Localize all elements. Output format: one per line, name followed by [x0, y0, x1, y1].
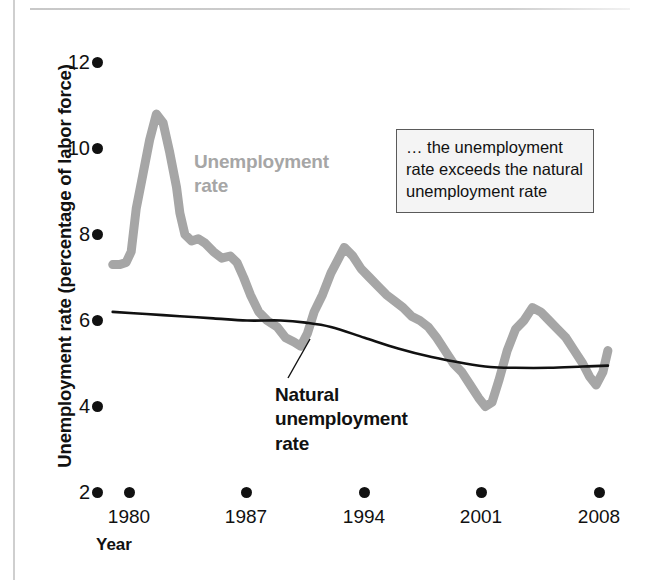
- x-tick-label-1980: 1980: [89, 506, 169, 528]
- x-tick-dot-1994: [359, 487, 370, 498]
- annotation-line3: unemployment rate: [406, 181, 584, 203]
- x-tick-label-1987: 1987: [206, 506, 286, 528]
- series-label-natural-rate: Natural unemployment rate: [275, 383, 408, 456]
- series-label-unemployment-line1: Unemployment: [194, 150, 329, 174]
- x-axis-title: Year: [96, 535, 132, 555]
- annotation-line1: … the unemployment: [406, 137, 584, 159]
- x-tick-label-2001: 2001: [441, 506, 521, 528]
- x-tick-dot-2008: [594, 487, 605, 498]
- chart-page: Unemployment rate (percentage of labor f…: [0, 0, 651, 580]
- x-tick-dot-1987: [241, 487, 252, 498]
- x-tick-label-2008: 2008: [559, 506, 639, 528]
- series-label-natural-line2: unemployment: [275, 407, 408, 431]
- series-label-unemployment-rate: Unemployment rate: [194, 150, 329, 199]
- x-tick-dot-2001: [476, 487, 487, 498]
- plot-area: [0, 0, 651, 580]
- x-tick-label-1994: 1994: [324, 506, 404, 528]
- series-label-natural-line3: rate: [275, 432, 408, 456]
- annotation-line2: rate exceeds the natural: [406, 159, 584, 181]
- series-line-natural-rate: [113, 312, 608, 368]
- series-label-natural-line1: Natural: [275, 383, 408, 407]
- annotation-callout: … the unemployment rate exceeds the natu…: [396, 129, 594, 213]
- series-label-unemployment-line2: rate: [194, 174, 329, 198]
- x-tick-dot-1980: [124, 487, 135, 498]
